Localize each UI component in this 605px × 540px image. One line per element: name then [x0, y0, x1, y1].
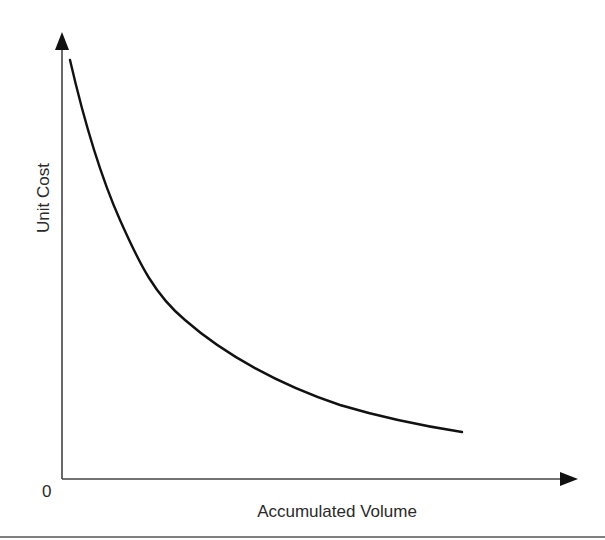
chart-canvas — [0, 0, 605, 540]
experience-curve — [70, 60, 462, 432]
y-axis-arrow-icon — [55, 32, 69, 50]
y-axis-label: Unit Cost — [34, 163, 54, 233]
origin-label: 0 — [42, 482, 51, 502]
x-axis-label: Accumulated Volume — [257, 502, 417, 522]
x-axis-arrow-icon — [560, 472, 578, 486]
